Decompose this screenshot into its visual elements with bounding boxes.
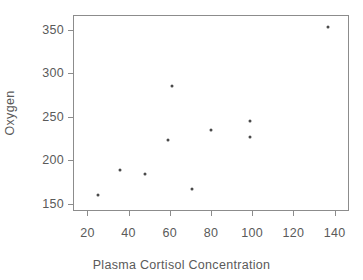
data-point: [170, 85, 173, 88]
y-tick-label: 300: [24, 66, 64, 80]
x-tick-label: 20: [67, 226, 107, 240]
x-tick: [211, 211, 212, 216]
data-point: [210, 128, 213, 131]
y-tick: [68, 160, 73, 161]
data-point: [144, 173, 147, 176]
data-point: [249, 120, 252, 123]
data-point: [327, 26, 330, 29]
x-tick-label: 100: [232, 226, 272, 240]
data-point: [96, 194, 99, 197]
y-tick: [68, 204, 73, 205]
x-tick: [335, 211, 336, 216]
data-point: [249, 135, 252, 138]
plot-area: [73, 15, 349, 211]
x-tick-label: 140: [315, 226, 355, 240]
x-tick: [129, 211, 130, 216]
y-tick-label: 350: [24, 23, 64, 37]
y-tick-label: 250: [24, 110, 64, 124]
x-tick: [252, 211, 253, 216]
x-tick-label: 120: [273, 226, 313, 240]
y-axis-title: Oxygen: [3, 53, 17, 173]
data-point: [166, 138, 169, 141]
x-tick: [87, 211, 88, 216]
data-point: [191, 188, 194, 191]
y-tick: [68, 73, 73, 74]
y-tick: [68, 30, 73, 31]
x-axis-title: Plasma Cortisol Concentration: [0, 258, 363, 272]
y-tick: [68, 117, 73, 118]
y-tick-label: 200: [24, 153, 64, 167]
scatter-plot-figure: 150200250300350 20406080100120140 Oxygen…: [0, 0, 363, 280]
x-tick: [293, 211, 294, 216]
y-tick-label: 150: [24, 197, 64, 211]
x-tick-label: 60: [150, 226, 190, 240]
x-tick-label: 80: [191, 226, 231, 240]
x-tick: [170, 211, 171, 216]
x-tick-label: 40: [109, 226, 149, 240]
data-point: [119, 169, 122, 172]
